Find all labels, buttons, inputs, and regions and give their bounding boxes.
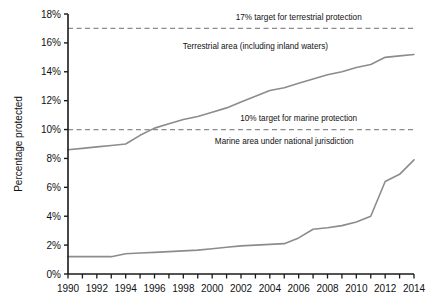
y-tick-label: 8% [47, 153, 62, 164]
marine-target-label: 10% target for marine protection [240, 114, 357, 123]
terrestrial-line [68, 54, 414, 149]
line-chart: 0%2%4%6%8%10%12%14%16%18% 19901992199419… [0, 0, 428, 308]
x-tick-label: 1992 [86, 283, 109, 294]
y-tick-label: 12% [41, 95, 61, 106]
x-tick-label: 2002 [230, 283, 253, 294]
y-tick-label: 6% [47, 182, 62, 193]
y-tick-label: 14% [41, 66, 61, 77]
x-tick-label: 1998 [172, 283, 195, 294]
x-tick-label: 1996 [143, 283, 166, 294]
x-tick-label: 1990 [57, 283, 80, 294]
y-axis: 0%2%4%6%8%10%12%14%16%18% [41, 9, 68, 280]
annotations-group: Terrestrial area (including inland water… [183, 13, 362, 146]
x-tick-label: 2012 [374, 283, 397, 294]
x-axis: 1990199219941996199820002002200420062008… [57, 274, 426, 294]
x-tick-label: 2010 [345, 283, 368, 294]
x-tick-label: 2008 [316, 283, 339, 294]
x-tick-label: 1994 [115, 283, 138, 294]
y-tick-label: 10% [41, 124, 61, 135]
terrestrial-series-label: Terrestrial area (including inland water… [183, 42, 328, 51]
y-tick-label: 2% [47, 240, 62, 251]
x-tick-label: 2000 [201, 283, 224, 294]
chart-container: 0%2%4%6%8%10%12%14%16%18% 19901992199419… [0, 0, 428, 308]
x-tick-label: 2004 [259, 283, 282, 294]
y-axis-title: Percentage protected [13, 96, 24, 192]
x-tick-label: 2006 [288, 283, 311, 294]
y-tick-label: 18% [41, 9, 61, 20]
marine-line [68, 160, 414, 257]
marine-series-label: Marine area under national jurisdiction [215, 137, 354, 146]
terrestrial-target-label: 17% target for terrestrial protection [236, 13, 363, 22]
series-lines-group [68, 54, 414, 256]
y-tick-label: 4% [47, 211, 62, 222]
y-tick-label: 0% [47, 269, 62, 280]
y-tick-label: 16% [41, 37, 61, 48]
x-tick-label: 2014 [403, 283, 426, 294]
